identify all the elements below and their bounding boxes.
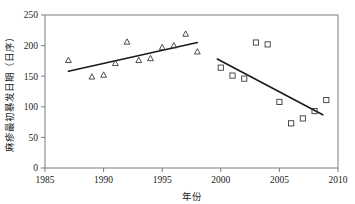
data-point-triangle [159, 44, 165, 49]
y-axis-tick-labels: 050100150200250 [24, 10, 39, 173]
data-point-square [242, 76, 247, 81]
y-axis-title: 麻疹最初暴发日期（日序） [4, 32, 15, 152]
series-triangle-markers [66, 31, 201, 79]
data-point-triangle [124, 39, 130, 44]
data-point-square [265, 42, 270, 47]
data-point-triangle [101, 72, 107, 77]
scatter-plot: 050100150200250 198519901995200020052010… [0, 0, 355, 204]
data-point-triangle [66, 57, 72, 62]
x-tick-label: 1990 [94, 175, 113, 185]
data-point-triangle [194, 49, 200, 54]
plot-border [45, 15, 338, 168]
data-point-square [289, 121, 294, 126]
data-point-triangle [89, 74, 95, 79]
y-tick-label: 150 [24, 72, 39, 82]
x-tick-label: 1985 [36, 175, 55, 185]
trend-line [68, 43, 197, 72]
x-axis-tick-labels: 198519901995200020052010 [36, 175, 348, 185]
data-point-square [324, 97, 329, 102]
data-point-square [300, 116, 305, 121]
data-point-square [218, 65, 223, 70]
y-tick-label: 50 [29, 133, 39, 143]
chart-container: 050100150200250 198519901995200020052010… [0, 0, 355, 204]
data-point-triangle [136, 57, 142, 62]
x-tick-label: 2000 [211, 175, 230, 185]
x-axis-ticks [45, 168, 338, 172]
data-point-triangle [183, 31, 189, 36]
plot-frame [45, 15, 338, 168]
x-tick-label: 2010 [329, 175, 348, 185]
trend-line [217, 59, 322, 115]
y-tick-label: 250 [24, 10, 39, 20]
data-point-triangle [148, 55, 154, 60]
y-tick-label: 200 [24, 41, 39, 51]
y-axis-ticks [41, 15, 45, 168]
y-tick-label: 100 [24, 102, 39, 112]
data-point-square [277, 99, 282, 104]
x-tick-label: 2005 [270, 175, 289, 185]
x-axis-title: 年份 [182, 191, 202, 202]
x-tick-label: 1995 [153, 175, 172, 185]
series-square-markers [218, 40, 329, 126]
y-tick-label: 0 [33, 163, 38, 173]
data-point-square [253, 40, 258, 45]
trend-lines-group [68, 43, 322, 115]
data-point-square [230, 73, 235, 78]
